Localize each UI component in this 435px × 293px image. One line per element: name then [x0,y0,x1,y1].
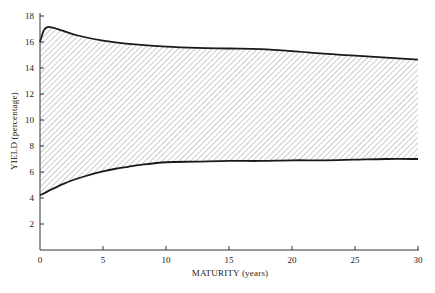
y-tick-label: 12 [25,89,34,99]
x-tick-label: 15 [225,255,235,265]
y-tick-label: 2 [30,219,35,229]
y-tick-label: 10 [25,115,35,125]
x-tick-label: 5 [101,255,106,265]
x-axis-ticks: 051015202530 [38,246,423,265]
hatched-yield-band [40,27,418,196]
yield-range-chart: 24681012141618 051015202530 MATURITY (ye… [0,0,435,293]
y-tick-label: 6 [30,167,35,177]
plot-area [40,27,418,196]
x-tick-label: 25 [351,255,361,265]
y-tick-label: 14 [25,63,35,73]
y-tick-label: 8 [30,141,35,151]
y-tick-label: 4 [30,193,35,203]
y-axis-title: YIELD (percentage) [9,92,19,170]
x-tick-label: 30 [414,255,424,265]
y-tick-label: 18 [25,11,35,21]
x-tick-label: 20 [288,255,298,265]
y-tick-label: 16 [25,37,35,47]
x-axis-title: MATURITY (years) [192,268,269,278]
x-tick-label: 10 [162,255,172,265]
x-tick-label: 0 [38,255,43,265]
